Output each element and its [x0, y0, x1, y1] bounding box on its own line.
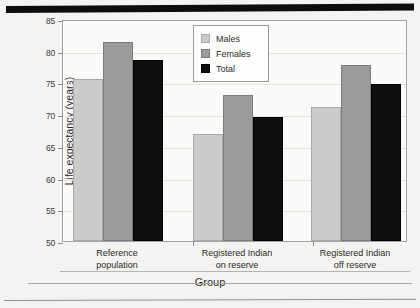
y-axis-tick: [58, 84, 63, 85]
legend-item-total: Total: [201, 62, 261, 75]
y-axis-tick-label: 55: [46, 206, 55, 216]
x-axis-category-label-line: Reference: [57, 248, 177, 260]
bar-total-group-1: [133, 60, 163, 241]
legend-swatch-females-icon: [201, 49, 210, 58]
y-axis-tick: [58, 243, 63, 244]
y-axis-tick: [58, 211, 63, 212]
legend-swatch-males-icon: [201, 34, 210, 43]
chart-figure: Life expectancy (years) 5055606570758085…: [0, 0, 420, 308]
y-axis-tick-label: 65: [46, 143, 55, 153]
y-axis-tick-label: 60: [46, 175, 55, 185]
x-axis-category-label-2: Registered Indianon reserve: [177, 248, 297, 271]
bar-females-group-1: [103, 42, 133, 241]
x-axis-category-label-line: on reserve: [177, 260, 297, 272]
y-axis-tick-label: 70: [46, 111, 55, 121]
y-axis-tick-label: 50: [46, 238, 55, 248]
legend-item-females: Females: [201, 47, 261, 60]
bar-males-group-2: [193, 134, 223, 241]
legend-swatch-total-icon: [201, 64, 210, 73]
x-axis-category-label-1: Referencepopulation: [57, 248, 177, 271]
y-axis-tick: [58, 53, 63, 54]
x-axis-category-label-line: Registered Indian: [295, 248, 415, 260]
scan-artifact-bar: [6, 4, 414, 13]
bar-total-group-2: [253, 117, 283, 241]
chart-legend: Males Females Total: [193, 25, 269, 82]
bar-total-group-3: [371, 84, 401, 241]
divider-line-bottom: [4, 299, 416, 301]
y-axis-tick: [58, 116, 63, 117]
x-axis-category-label-line: off reserve: [295, 260, 415, 272]
bar-males-group-1: [73, 79, 103, 241]
y-axis-tick-label: 75: [46, 79, 55, 89]
legend-label-males: Males: [216, 34, 240, 44]
y-axis-tick: [58, 180, 63, 181]
legend-label-total: Total: [216, 64, 235, 74]
x-axis-category-label-3: Registered Indianoff reserve: [295, 248, 415, 271]
x-axis-label: Group: [0, 276, 420, 288]
divider-line-middle: [28, 283, 412, 284]
y-axis-tick: [58, 21, 63, 22]
bar-males-group-3: [311, 107, 341, 241]
y-axis-tick: [58, 148, 63, 149]
bar-females-group-2: [223, 95, 253, 241]
x-axis-group-separator: [313, 241, 314, 246]
divider-line-top: [60, 271, 410, 272]
bar-females-group-3: [341, 65, 371, 241]
y-axis-tick-label: 85: [46, 16, 55, 26]
legend-item-males: Males: [201, 32, 261, 45]
x-axis-category-label-line: population: [57, 260, 177, 272]
x-axis-category-label-line: Registered Indian: [177, 248, 297, 260]
legend-label-females: Females: [216, 49, 251, 59]
y-axis-tick-label: 80: [46, 48, 55, 58]
x-axis-group-separator: [193, 241, 194, 246]
